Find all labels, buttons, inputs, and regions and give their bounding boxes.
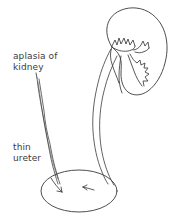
label-thin-ureter: thin ureter [13,142,41,164]
ureter-normal-medial-wall [100,56,117,185]
thin-ureter-midline [38,82,58,179]
anatomy-illustration [0,0,175,218]
thin-ureter-right-wall [39,79,60,184]
calyx-upper-group [112,38,135,46]
calyx-lower-chain [130,54,149,86]
label-aplasia-of-kidney: aplasia of kidney [13,51,57,73]
anatomy-diagram: aplasia of kidney thin ureter [0,0,175,218]
kidney-outline [107,8,167,95]
right-ureteral-orifice-barb-a [83,185,87,187]
calyx-middle [133,41,149,50]
aplasia-label-leader [36,73,37,78]
ureter-normal-lateral-wall [93,49,111,184]
renal-pelvis-medial-wall [119,56,122,93]
bladder-outline [41,170,117,212]
